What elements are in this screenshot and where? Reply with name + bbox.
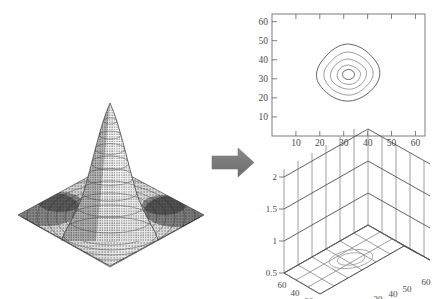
mesh3d-y-axis: 60 40 20 — [278, 280, 315, 299]
contour-plot: 10 20 30 40 50 60 — [248, 6, 434, 148]
mesh3d-xtick-60: 60 — [422, 277, 432, 287]
mesh3d-ztick-1: 1 — [273, 236, 278, 246]
mesh3d-ztick-2: 2 — [273, 172, 278, 182]
figure-canvas: 10 20 30 40 50 60 — [0, 0, 437, 299]
mesh3d-ztick-0-5: 0.5 — [266, 268, 278, 278]
contour-ytick-60: 60 — [259, 17, 269, 27]
mesh3d-plot: 0.5 1 1.5 2 60 40 20 10 20 30 40 50 60 — [248, 155, 437, 299]
mesh3d-z-axis: 0.5 1 1.5 2 — [266, 172, 284, 278]
contour-ytick-20: 20 — [259, 93, 269, 103]
contour-ytick-10: 10 — [259, 112, 269, 122]
mesh3d-xtick-30: 30 — [374, 294, 384, 299]
contour-plot-svg: 10 20 30 40 50 60 — [248, 6, 434, 148]
mesh3d-left-wall — [284, 129, 368, 273]
contour-xtick-20: 20 — [315, 138, 325, 148]
contour-xtick-60: 60 — [411, 138, 421, 148]
contour-ytick-30: 30 — [259, 74, 269, 84]
mesh3d-xtick-40: 40 — [389, 289, 399, 299]
contour-xtick-10: 10 — [291, 138, 301, 148]
mesh3d-ytick-40: 40 — [291, 288, 301, 298]
mesh3d-plot-svg: 0.5 1 1.5 2 60 40 20 10 20 30 40 50 60 — [248, 155, 437, 299]
mesh3d-floor-contour — [328, 247, 374, 272]
mesh3d-ytick-60: 60 — [278, 280, 288, 290]
contour-x-axis: 10 20 30 40 50 60 — [291, 14, 420, 148]
mesh3d-x-axis: 10 20 30 40 50 60 — [342, 277, 432, 299]
contour-ytick-40: 40 — [259, 55, 269, 65]
mesh3d-right-wall — [368, 129, 430, 260]
surface-plot-svg — [8, 95, 213, 280]
contour-ytick-50: 50 — [259, 36, 269, 46]
contour-levels — [316, 44, 379, 101]
contour-axes-frame — [272, 14, 425, 136]
contour-y-axis: 10 20 30 40 50 60 — [259, 17, 278, 122]
contour-xtick-50: 50 — [387, 138, 397, 148]
mesh3d-ztick-1-5: 1.5 — [266, 204, 278, 214]
mesh3d-xtick-50: 50 — [403, 284, 413, 294]
surface-plot — [8, 95, 213, 280]
